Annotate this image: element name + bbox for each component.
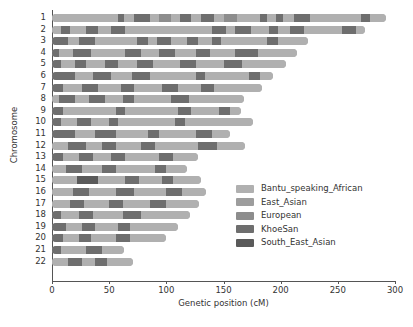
legend-item-khoesan: KhoeSan — [236, 223, 363, 236]
ancestry-segment — [52, 130, 75, 138]
ancestry-segment — [123, 211, 141, 219]
ancestry-segment — [180, 60, 196, 68]
ancestry-segment — [86, 246, 102, 254]
ancestry-segment — [111, 153, 125, 161]
ancestry-segment — [124, 14, 134, 22]
y-tick-label-chr-18: 18 — [35, 209, 46, 219]
ancestry-segment — [68, 142, 86, 150]
ancestry-segment — [130, 234, 167, 242]
ancestry-segment — [210, 49, 235, 57]
ancestry-segment — [171, 14, 180, 22]
ancestry-segment — [141, 142, 155, 150]
ancestry-segment — [196, 72, 205, 80]
chromosome-bar-15 — [52, 176, 201, 184]
ancestry-segment — [125, 153, 159, 161]
chromosome-bar-11 — [52, 130, 230, 138]
ancestry-segment — [267, 37, 278, 45]
x-tick-label-150: 150 — [215, 285, 231, 295]
ancestry-segment — [118, 60, 136, 68]
ancestry-segment — [185, 118, 254, 126]
ancestry-segment — [61, 26, 70, 34]
ancestry-segment — [70, 200, 84, 208]
chromosome-bar-4 — [52, 49, 297, 57]
y-tick-label-chr-2: 2 — [41, 24, 46, 34]
chromosome-bar-21 — [52, 246, 124, 254]
ancestry-segment — [187, 37, 198, 45]
ancestry-segment — [235, 49, 258, 57]
ancestry-segment — [75, 130, 96, 138]
ancestry-segment — [141, 49, 159, 57]
ancestry-segment — [79, 211, 93, 219]
ancestry-segment — [82, 84, 98, 92]
ancestry-segment — [116, 188, 134, 196]
y-tick-label-chr-3: 3 — [41, 35, 46, 45]
y-tick-label-chr-11: 11 — [35, 128, 46, 138]
ancestry-segment — [61, 211, 79, 219]
legend-swatch-icon — [236, 239, 254, 247]
ancestry-segment — [276, 14, 283, 22]
chromosome-bar-19 — [52, 223, 178, 231]
x-axis-label: Genetic position (cM) — [52, 298, 395, 308]
x-tick-label-250: 250 — [330, 285, 346, 295]
ancestry-segment — [162, 176, 173, 184]
ancestry-segment — [82, 258, 96, 266]
ancestry-segment — [251, 26, 269, 34]
ancestry-segment — [201, 84, 215, 92]
ancestry-segment — [91, 118, 109, 126]
ancestry-segment — [63, 153, 79, 161]
ancestry-segment — [52, 84, 63, 92]
ancestry-segment — [107, 258, 133, 266]
ancestry-segment — [52, 60, 61, 68]
ancestry-segment — [198, 37, 212, 45]
ancestry-segment — [310, 14, 360, 22]
ancestry-segment — [162, 84, 178, 92]
ancestry-segment — [52, 153, 63, 161]
y-tick-label-chr-1: 1 — [41, 12, 46, 22]
ancestry-segment — [155, 142, 198, 150]
ancestry-segment — [77, 118, 91, 126]
legend-item-bantu-speaking-african: Bantu_speaking_African — [236, 182, 363, 195]
ancestry-segment — [159, 130, 196, 138]
ancestry-segment — [196, 49, 210, 57]
ancestry-segment — [221, 37, 267, 45]
ancestry-segment — [370, 14, 386, 22]
ancestry-segment — [171, 95, 189, 103]
chromosome-bar-16 — [52, 188, 206, 196]
ancestry-segment — [91, 49, 125, 57]
ancestry-segment — [84, 200, 109, 208]
x-tick-label-0: 0 — [49, 285, 54, 295]
chromosome-bar-8 — [52, 95, 244, 103]
legend-label: Bantu_speaking_African — [261, 184, 363, 193]
x-tick-label-100: 100 — [158, 285, 174, 295]
chromosome-bar-3 — [52, 37, 308, 45]
chromosome-painting-figure: 050100150200250300 123456789101112131415… — [0, 0, 413, 327]
ancestry-segment — [95, 130, 116, 138]
ancestry-segment — [212, 130, 230, 138]
ancestry-segment — [89, 188, 116, 196]
ancestry-segment — [116, 107, 125, 115]
legend: Bantu_speaking_AfricanEast_AsianEuropean… — [236, 182, 363, 250]
ancestry-segment — [178, 84, 201, 92]
ancestry-segment — [294, 14, 310, 22]
ancestry-segment — [226, 26, 235, 34]
ancestry-segment — [290, 26, 304, 34]
legend-label: South_East_Asian — [261, 238, 336, 247]
legend-item-south-east-asian: South_East_Asian — [236, 236, 363, 249]
ancestry-segment — [61, 118, 77, 126]
y-tick-label-chr-4: 4 — [41, 47, 46, 57]
ancestry-segment — [52, 14, 118, 22]
ancestry-segment — [230, 107, 240, 115]
ancestry-segment — [95, 223, 118, 231]
ancestry-segment — [214, 14, 223, 22]
ancestry-segment — [260, 14, 267, 22]
ancestry-segment — [148, 37, 157, 45]
x-tick-250 — [338, 281, 339, 284]
ancestry-segment — [52, 165, 66, 173]
ancestry-segment — [175, 49, 196, 57]
ancestry-segment — [125, 26, 166, 34]
ancestry-segment — [134, 84, 161, 92]
ancestry-segment — [77, 176, 98, 184]
ancestry-segment — [98, 84, 121, 92]
y-tick-label-chr-19: 19 — [35, 221, 46, 231]
y-tick-label-chr-9: 9 — [41, 105, 46, 115]
